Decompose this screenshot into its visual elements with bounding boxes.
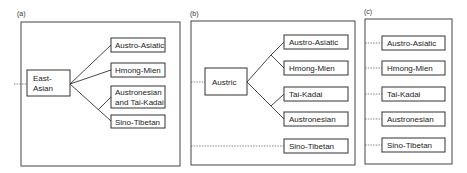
edge-east-asian-sino-tibetan bbox=[70, 84, 111, 121]
node-austronesian-label: Austronesian bbox=[289, 115, 336, 124]
node-austric-label: Austric bbox=[212, 78, 236, 87]
node-austronesian-label: Austronesian bbox=[387, 115, 434, 124]
edge-austric-lower-branch bbox=[247, 82, 271, 106]
panel-c: (c) Austro-Asiatic Hmong-Mien Tai-Kadai … bbox=[364, 8, 452, 164]
node-hmong-mien-label: Hmong-Mien bbox=[115, 66, 161, 75]
panel-b: (b) Austric Austro-Asiatic Hmong-Mien Ta… bbox=[190, 10, 355, 165]
node-hmong-mien-label: Hmong-Mien bbox=[289, 64, 335, 73]
edge-branch-hmong-mien bbox=[271, 55, 284, 68]
edge-east-asian-hmong-mien bbox=[70, 70, 111, 84]
panel-c-label: (c) bbox=[364, 8, 372, 16]
node-sino-tibetan-label: Sino-Tibetan bbox=[115, 118, 160, 127]
language-family-diagram: (a) East- Asian Austro-Asiatic Hmong-Mie… bbox=[0, 0, 467, 173]
panel-a-label: (a) bbox=[17, 10, 26, 18]
edge-branch-austronesian-tai-kadai bbox=[98, 97, 111, 110]
panel-a: (a) East- Asian Austro-Asiatic Hmong-Mie… bbox=[14, 10, 180, 166]
edge-branch-austro-asiatic bbox=[271, 42, 284, 55]
node-sino-tibetan-label: Sino-Tibetan bbox=[387, 141, 432, 150]
node-austronesian-and-tai-kadai-line1: Austronesian bbox=[115, 88, 162, 97]
node-austro-asiatic-label: Austro-Asiatic bbox=[115, 41, 164, 50]
node-tai-kadai-label: Tai-Kadai bbox=[289, 90, 323, 99]
panel-b-label: (b) bbox=[190, 10, 199, 18]
edge-branch-austronesian bbox=[271, 106, 284, 119]
node-austro-asiatic-label: Austro-Asiatic bbox=[387, 39, 436, 48]
node-sino-tibetan-label: Sino-Tibetan bbox=[289, 142, 334, 151]
edge-branch-tai-kadai bbox=[271, 94, 284, 106]
edge-east-asian-austro-asiatic bbox=[70, 45, 111, 84]
node-east-asian-line1: East- bbox=[33, 74, 52, 83]
node-austro-asiatic-label: Austro-Asiatic bbox=[289, 38, 338, 47]
edge-austric-upper-branch bbox=[247, 55, 271, 82]
node-austronesian-and-tai-kadai-line2: and Tai-Kadai bbox=[115, 98, 164, 107]
node-tai-kadai-label: Tai-Kadai bbox=[387, 90, 421, 99]
node-hmong-mien-label: Hmong-Mien bbox=[387, 64, 433, 73]
node-east-asian-line2: Asian bbox=[33, 84, 53, 93]
